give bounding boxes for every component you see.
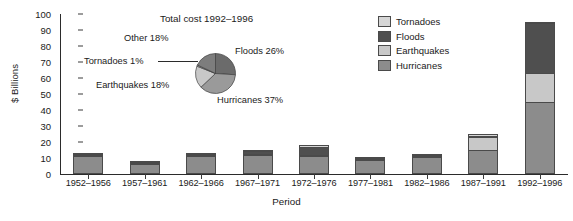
x-tick-label: 1967–1971 (235, 178, 280, 188)
pie-leader-line-tornadoes (158, 61, 198, 62)
bar-segment-floods[interactable] (299, 147, 329, 156)
y-tick-label: 80 (40, 41, 51, 52)
legend-label: Hurricanes (396, 60, 442, 71)
bar-segment-earthquakes[interactable] (468, 137, 498, 150)
bar-stack[interactable] (73, 153, 103, 174)
bar-segment-hurricanes[interactable] (299, 156, 329, 174)
bar-segment-hurricanes[interactable] (468, 150, 498, 174)
pie-label-floods: Floods 26% (235, 46, 284, 56)
pie-label-hurricanes: Hurricanes 37% (217, 95, 283, 105)
x-axis-tick-labels: 1952–19561957–19611962–19661967–19711972… (60, 178, 568, 192)
bar-segment-hurricanes[interactable] (186, 156, 216, 174)
bar-segment-hurricanes[interactable] (525, 102, 555, 174)
bar-stack[interactable] (186, 153, 216, 175)
y-tick-label: 10 (40, 153, 51, 164)
legend: TornadoesFloodsEarthquakesHurricanes (378, 15, 449, 73)
bar-stack[interactable] (412, 154, 442, 174)
legend-label: Floods (396, 31, 425, 42)
y-tick-label: 70 (40, 57, 51, 68)
legend-swatch (378, 60, 391, 71)
legend-item-floods[interactable]: Floods (378, 30, 449, 43)
legend-item-hurricanes[interactable]: Hurricanes (378, 59, 449, 72)
y-tick-label: 100 (35, 9, 51, 20)
y-tick-label: 50 (40, 89, 51, 100)
bar-stack[interactable] (130, 161, 160, 174)
y-tick-label: 40 (40, 105, 51, 116)
pie-label-earthquakes: Earthquakes 18% (96, 80, 169, 90)
bar-segment-hurricanes[interactable] (130, 164, 160, 174)
pie-label-tornadoes: Tornadoes 1% (84, 56, 143, 66)
chart-figure: $ Billions 0102030405060708090100 1952–1… (0, 0, 573, 221)
legend-label: Tornadoes (396, 16, 440, 27)
legend-label: Earthquakes (396, 45, 449, 56)
legend-swatch (378, 45, 391, 56)
x-tick-label: 1987–1991 (461, 178, 506, 188)
x-tick-label: 1957–1961 (122, 178, 167, 188)
bar-stack[interactable] (299, 145, 329, 174)
y-tick-label: 30 (40, 121, 51, 132)
y-tick-label: 60 (40, 73, 51, 84)
x-tick-label: 1962–1966 (179, 178, 224, 188)
pie-title: Total cost 1992–1996 (160, 13, 253, 24)
bar-stack[interactable] (468, 134, 498, 174)
bar-stack[interactable] (243, 150, 273, 174)
x-tick-label: 1972–1976 (291, 178, 336, 188)
bar-stack[interactable] (355, 157, 385, 174)
y-tick-label: 20 (40, 137, 51, 148)
bar-segment-earthquakes[interactable] (525, 73, 555, 102)
bar-segment-hurricanes[interactable] (243, 155, 273, 174)
pie-slice-floods[interactable] (216, 54, 236, 75)
bar-segment-floods[interactable] (525, 23, 555, 73)
pie-chart (195, 53, 236, 94)
x-tick-label: 1977–1981 (348, 178, 393, 188)
x-tick-label: 1952–1956 (66, 178, 111, 188)
x-axis-title: Period (0, 196, 573, 207)
y-tick-label: 0 (46, 169, 51, 180)
x-tick-label: 1982–1986 (404, 178, 449, 188)
bar-segment-hurricanes[interactable] (355, 160, 385, 174)
x-tick-label: 1992–1996 (517, 178, 562, 188)
y-axis-ticks: 0102030405060708090100 (22, 14, 56, 174)
legend-swatch (378, 16, 391, 27)
legend-swatch (378, 31, 391, 42)
pie-label-other: Other 18% (124, 33, 168, 43)
legend-item-tornadoes[interactable]: Tornadoes (378, 15, 449, 28)
legend-item-earthquakes[interactable]: Earthquakes (378, 44, 449, 57)
y-axis-title: $ Billions (9, 44, 20, 124)
bar-segment-hurricanes[interactable] (412, 157, 442, 174)
bar-segment-hurricanes[interactable] (73, 156, 103, 174)
y-tick-label: 90 (40, 25, 51, 36)
bar-stack[interactable] (525, 22, 555, 174)
